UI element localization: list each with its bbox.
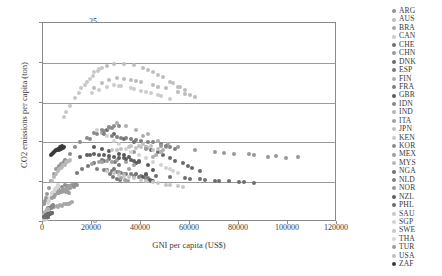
data-point [105, 169, 109, 173]
data-point [117, 84, 121, 88]
x-tick-label: 120000 [306, 224, 366, 232]
data-point [159, 144, 163, 148]
data-point [64, 110, 68, 114]
data-point [284, 156, 288, 160]
data-point [72, 185, 76, 189]
data-point [92, 152, 96, 156]
gridline [43, 182, 335, 183]
data-point [151, 155, 155, 159]
data-point [122, 174, 126, 178]
data-point [183, 92, 187, 96]
data-point [90, 162, 94, 166]
data-point [62, 115, 66, 119]
data-point [88, 153, 92, 157]
legend-marker-icon [392, 77, 396, 81]
data-point [127, 175, 131, 179]
data-point [80, 167, 84, 171]
data-point [119, 147, 123, 151]
x-tick-mark [91, 221, 92, 224]
data-point [203, 178, 207, 182]
data-point [132, 159, 136, 163]
data-point [117, 142, 121, 146]
data-point [91, 74, 95, 78]
x-axis-title: GNI per capita (US$) [42, 240, 336, 250]
data-point [266, 155, 270, 159]
data-point [146, 68, 150, 72]
data-point [181, 161, 185, 165]
data-point [178, 85, 182, 89]
data-point [92, 86, 96, 90]
legend-marker-icon [392, 212, 396, 216]
data-point [67, 191, 71, 195]
data-point [88, 77, 92, 81]
data-point [274, 154, 278, 158]
data-point [57, 167, 61, 171]
data-point [56, 205, 60, 209]
legend-marker-icon [392, 68, 396, 72]
data-point [193, 148, 197, 152]
data-point [52, 175, 56, 179]
legend-marker-icon [392, 43, 396, 47]
legend-marker-icon [392, 110, 396, 114]
data-point [213, 150, 217, 154]
data-point [161, 148, 165, 152]
legend-marker-icon [392, 9, 396, 13]
data-point [237, 180, 241, 184]
data-point [78, 140, 82, 144]
data-point [193, 95, 197, 99]
data-point [117, 152, 121, 156]
data-point [146, 163, 150, 167]
data-point [75, 183, 79, 187]
data-point [122, 62, 126, 66]
legend-marker-icon [392, 136, 396, 140]
legend-marker-icon [392, 229, 396, 233]
data-point [95, 132, 99, 136]
data-point [176, 184, 180, 188]
data-point [146, 132, 150, 136]
data-point [164, 86, 168, 90]
data-point [198, 177, 202, 181]
scatter-chart-figure: CO2 emissions per capita (ton) GNI per c… [0, 0, 442, 276]
legend-marker-icon [392, 254, 396, 258]
data-point [198, 169, 202, 173]
data-point [176, 90, 180, 94]
data-point [132, 176, 136, 180]
data-point [129, 78, 133, 82]
data-point [47, 186, 51, 190]
x-tick-mark [287, 221, 288, 224]
data-point [186, 164, 190, 168]
data-point [77, 91, 81, 95]
x-tick-mark [189, 221, 190, 224]
legend-marker-icon [392, 26, 396, 30]
legend-marker-icon [392, 170, 396, 174]
data-point [97, 153, 101, 157]
data-point [188, 177, 192, 181]
data-point [171, 169, 175, 173]
data-point [296, 155, 300, 159]
data-point [151, 70, 155, 74]
data-point [110, 134, 114, 138]
data-point [100, 160, 104, 164]
data-point [168, 183, 172, 187]
data-point [139, 80, 143, 84]
data-point [78, 155, 82, 159]
data-point [110, 160, 114, 164]
data-point [112, 155, 116, 159]
data-point [137, 160, 141, 164]
data-point [95, 167, 99, 171]
data-point [115, 148, 119, 152]
legend-item-zaf[interactable]: ZAF [392, 260, 442, 268]
data-point [151, 180, 155, 184]
data-point [151, 83, 155, 87]
legend-marker-icon [392, 94, 396, 98]
data-point [144, 156, 148, 160]
data-point [92, 70, 96, 74]
data-point [117, 173, 121, 177]
gridline [43, 63, 335, 64]
data-point [92, 145, 96, 149]
gridline [43, 103, 335, 104]
data-point [252, 181, 256, 185]
data-point [117, 156, 121, 160]
data-point [168, 145, 172, 149]
data-point [149, 91, 153, 95]
